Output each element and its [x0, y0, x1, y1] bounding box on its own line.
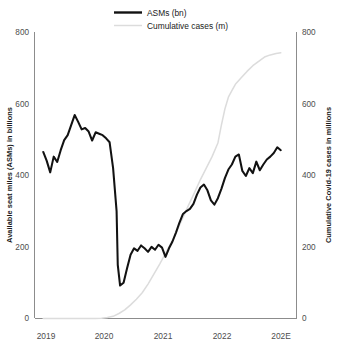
left-axis-title: Available seat miles (ASMs) in billions — [5, 107, 14, 243]
legend-label-asms: ASMs (bn) — [147, 8, 187, 18]
dual-axis-line-chart: ASMs (bn) Cumulative cases (m) 0 200 400… — [0, 0, 339, 353]
x-tick-label-2020: 2020 — [95, 331, 114, 341]
left-tick-label-0: 0 — [24, 314, 29, 323]
right-tick-label-800: 800 — [302, 28, 316, 37]
left-tick-label-400: 400 — [15, 171, 29, 180]
right-axis-title: Cumulative Covid-19 cases in millions — [324, 107, 333, 243]
legend-label-cases: Cumulative cases (m) — [147, 21, 228, 31]
x-tick-label-2023e: 202E — [271, 331, 291, 341]
x-tick-label-2021: 2021 — [154, 331, 173, 341]
left-tick-label-800: 800 — [15, 28, 29, 37]
x-tick-label-2019: 2019 — [37, 331, 56, 341]
left-tick-label-600: 600 — [15, 100, 29, 109]
right-tick-label-600: 600 — [302, 100, 316, 109]
right-tick-label-0: 0 — [302, 314, 307, 323]
left-tick-label-200: 200 — [15, 243, 29, 252]
chart-container: ASMs (bn) Cumulative cases (m) 0 200 400… — [0, 0, 339, 353]
x-tick-label-2022: 2022 — [213, 331, 232, 341]
chart-background — [0, 0, 339, 353]
right-tick-label-200: 200 — [302, 243, 316, 252]
right-tick-label-400: 400 — [302, 171, 316, 180]
